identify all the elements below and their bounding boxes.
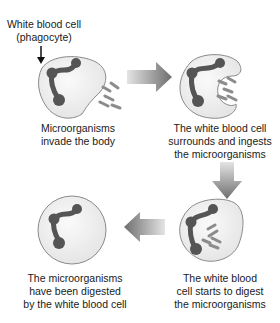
microorganisms-icon (218, 78, 236, 100)
step-3-caption: The white blood cell starts to digest th… (160, 272, 280, 311)
arrow-right-icon (127, 62, 172, 92)
callout-arrow-icon (37, 46, 45, 64)
step-1-cell (39, 57, 106, 119)
step-3-cell (180, 199, 243, 261)
step-2-caption: The white blood cell surrounds and inges… (160, 122, 280, 161)
step-2-cell (180, 55, 241, 119)
caption-line: the microorganisms (160, 298, 280, 311)
caption-line: The microorganisms (10, 272, 140, 285)
microorganisms-icon (100, 83, 120, 108)
step-1-caption: Microorganisms invade the body (28, 122, 128, 148)
step-4-cell (38, 196, 106, 264)
arrow-down-icon (212, 162, 242, 199)
caption-line: The white blood cell (160, 122, 280, 135)
callout-line-1: White blood cell (4, 18, 84, 31)
caption-line: The white blood (160, 272, 280, 285)
caption-line: have been digested (10, 285, 140, 298)
caption-line: the microorganisms (160, 148, 280, 161)
step-4-caption: The microorganisms have been digested by… (10, 272, 140, 311)
callout-line-2: (phagocyte) (4, 31, 84, 44)
caption-line: cell starts to digest (160, 285, 280, 298)
caption-line: by the white blood cell (10, 298, 140, 311)
callout-label: White blood cell (phagocyte) (4, 18, 84, 44)
caption-line: Microorganisms (28, 122, 128, 135)
caption-line: invade the body (28, 135, 128, 148)
arrow-left-icon (124, 212, 165, 242)
caption-line: surrounds and ingests (160, 135, 280, 148)
